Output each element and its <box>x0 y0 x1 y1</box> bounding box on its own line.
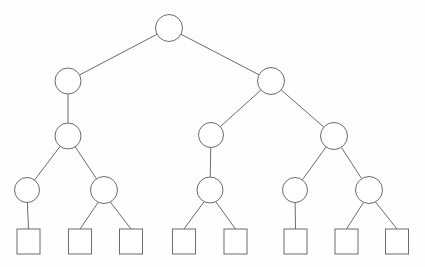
tree-node-square[interactable] <box>224 229 247 254</box>
tree-node-square[interactable] <box>17 229 40 254</box>
tree-edge <box>281 90 324 127</box>
tree-edge <box>220 90 261 127</box>
tree-edge <box>27 202 28 229</box>
tree-edge <box>375 202 397 229</box>
tree-edge <box>35 146 61 180</box>
tree-diagram-svg <box>0 0 425 267</box>
tree-node-circle[interactable] <box>15 178 40 203</box>
tree-edge <box>347 202 364 229</box>
tree-edge <box>181 34 259 75</box>
tree-node-circle[interactable] <box>356 177 383 204</box>
tree-edge <box>75 147 96 179</box>
tree-edge <box>110 202 131 229</box>
tree-edge <box>80 202 98 229</box>
tree-node-circle[interactable] <box>321 123 348 150</box>
tree-node-square[interactable] <box>173 229 196 254</box>
tree-node-circle[interactable] <box>283 178 308 203</box>
tree-diagram-canvas <box>0 0 425 267</box>
tree-edge <box>80 34 158 75</box>
tree-node-square[interactable] <box>284 229 307 254</box>
tree-edge <box>184 202 204 229</box>
tree-node-circle[interactable] <box>55 123 81 149</box>
tree-node-square[interactable] <box>386 229 409 254</box>
tree-node-square[interactable] <box>335 229 358 254</box>
tree-node-circle[interactable] <box>258 68 285 95</box>
tree-edge <box>210 148 211 178</box>
tree-node-circle[interactable] <box>199 123 224 148</box>
tree-node-circle[interactable] <box>91 177 118 204</box>
tree-node-square[interactable] <box>120 229 143 254</box>
tree-node-circle[interactable] <box>55 68 81 94</box>
tree-node-circle[interactable] <box>156 15 183 42</box>
tree-edge <box>341 147 361 178</box>
tree-node-circle[interactable] <box>197 177 223 203</box>
tree-edge <box>302 147 326 180</box>
tree-edge <box>216 202 236 229</box>
tree-node-square[interactable] <box>69 229 92 254</box>
